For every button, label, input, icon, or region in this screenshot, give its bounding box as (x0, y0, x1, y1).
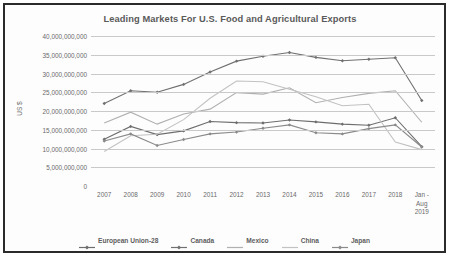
y-tick-label: 40,000,000,000 (9, 33, 87, 40)
series-marker (103, 102, 106, 105)
chart-frame: Leading Markets For U.S. Food and Agricu… (3, 3, 446, 253)
series-marker (129, 132, 132, 135)
legend-label: European Union-28 (98, 237, 158, 244)
legend-label: Mexico (246, 237, 268, 244)
series-marker (208, 132, 211, 135)
series-marker (367, 58, 370, 61)
series-marker (129, 125, 132, 128)
series-marker (235, 59, 238, 62)
series-line (104, 53, 422, 104)
series-marker (341, 122, 344, 125)
series-marker (288, 51, 291, 54)
series-marker (208, 120, 211, 123)
gridline (91, 55, 435, 56)
legend-item[interactable]: Japan (332, 237, 370, 244)
series-marker (155, 144, 158, 147)
legend-label: China (301, 237, 319, 244)
legend-label: Japan (351, 237, 370, 244)
legend-swatch-icon (282, 237, 298, 244)
gridline (91, 74, 435, 75)
series-marker (314, 120, 317, 123)
legend-item[interactable]: European Union-28 (79, 237, 158, 244)
gridline (91, 167, 435, 168)
series-marker (182, 83, 185, 86)
legend-item[interactable]: China (282, 237, 319, 244)
legend-label: Canada (190, 237, 214, 244)
y-tick-label: 20,000,000,000 (9, 108, 87, 115)
y-tick-label: 10,000,000,000 (9, 145, 87, 152)
series-marker (288, 118, 291, 121)
series-marker (314, 56, 317, 59)
chart-legend: European Union-28CanadaMexicoChinaJapan (5, 237, 444, 244)
y-axis-tick-labels: 05,000,000,00010,000,000,00015,000,000,0… (7, 5, 87, 251)
screenshot-root: Leading Markets For U.S. Food and Agricu… (0, 0, 451, 258)
legend-swatch-icon (171, 237, 187, 244)
y-tick-label: 15,000,000,000 (9, 126, 87, 133)
gridline (91, 111, 435, 112)
legend-item[interactable]: Mexico (227, 237, 268, 244)
x-tick-label: Jan -Aug2019 (402, 191, 442, 217)
gridline (91, 130, 435, 131)
series-marker (182, 138, 185, 141)
legend-swatch-icon (79, 237, 95, 244)
series-marker (288, 123, 291, 126)
plot-area (91, 36, 435, 186)
series-marker (103, 139, 106, 142)
y-tick-label: 35,000,000,000 (9, 51, 87, 58)
x-axis-tick-labels: 2007200820092010201120122013201420152016… (91, 191, 435, 236)
series-marker (261, 121, 264, 124)
chart-title: Leading Markets For U.S. Food and Agricu… (65, 14, 395, 24)
gridline (91, 36, 435, 37)
chart-inner: Leading Markets For U.S. Food and Agricu… (5, 5, 444, 251)
series-marker (341, 59, 344, 62)
series-marker (341, 132, 344, 135)
y-tick-label: 25,000,000,000 (9, 89, 87, 96)
y-tick-label: 5,000,000,000 (9, 164, 87, 171)
legend-swatch-icon (227, 237, 243, 244)
legend-swatch-icon (332, 237, 348, 244)
gridline (91, 92, 435, 93)
series-marker (367, 124, 370, 127)
legend-item[interactable]: Canada (171, 237, 214, 244)
y-tick-label: 30,000,000,000 (9, 70, 87, 77)
series-marker (235, 130, 238, 133)
y-tick-label: 0 (9, 183, 87, 190)
gridline (91, 149, 435, 150)
series-marker (235, 121, 238, 124)
series-marker (314, 131, 317, 134)
